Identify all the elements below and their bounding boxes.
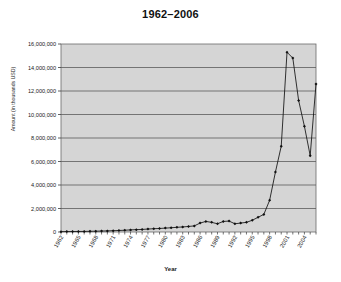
x-tick-label: 2001: [279, 235, 291, 249]
y-tick-label: 0: [53, 229, 56, 235]
y-tick-label: 6,000,000: [31, 159, 56, 165]
x-tick-label: 1974: [122, 234, 134, 249]
y-axis-ticks: [58, 44, 61, 232]
y-tick-label: 16,000,000: [28, 41, 56, 47]
x-tick-label: 1998: [261, 235, 273, 249]
y-axis-tick-labels: 02,000,0004,000,0006,000,0008,000,00010,…: [28, 41, 56, 235]
x-tick-label: 1962: [53, 235, 65, 249]
x-tick-label: 1995: [244, 235, 256, 249]
x-tick-label: 1971: [105, 235, 117, 249]
x-tick-label: 1992: [227, 235, 239, 249]
x-tick-label: 1986: [192, 235, 204, 249]
x-tick-label: 1980: [157, 235, 169, 249]
x-tick-label: 1983: [174, 235, 186, 249]
x-tick-label: 2004: [296, 234, 308, 249]
x-tick-label: 1968: [87, 235, 99, 249]
y-tick-label: 12,000,000: [28, 88, 56, 94]
x-tick-label: 1965: [70, 235, 82, 249]
x-axis-tick-labels: 1962196519681971197419771980198319861989…: [53, 234, 308, 249]
y-tick-label: 4,000,000: [31, 182, 56, 188]
chart-plot: 02,000,0004,000,0006,000,0008,000,00010,…: [0, 0, 341, 282]
x-tick-label: 1989: [209, 235, 221, 249]
y-tick-label: 8,000,000: [31, 135, 56, 141]
y-tick-label: 10,000,000: [28, 112, 56, 118]
y-tick-label: 2,000,000: [31, 206, 56, 212]
x-tick-label: 1977: [140, 235, 152, 249]
y-tick-label: 14,000,000: [28, 65, 56, 71]
chart-container: 1962–2006 Amount (in thousands USD) Year…: [0, 0, 341, 282]
